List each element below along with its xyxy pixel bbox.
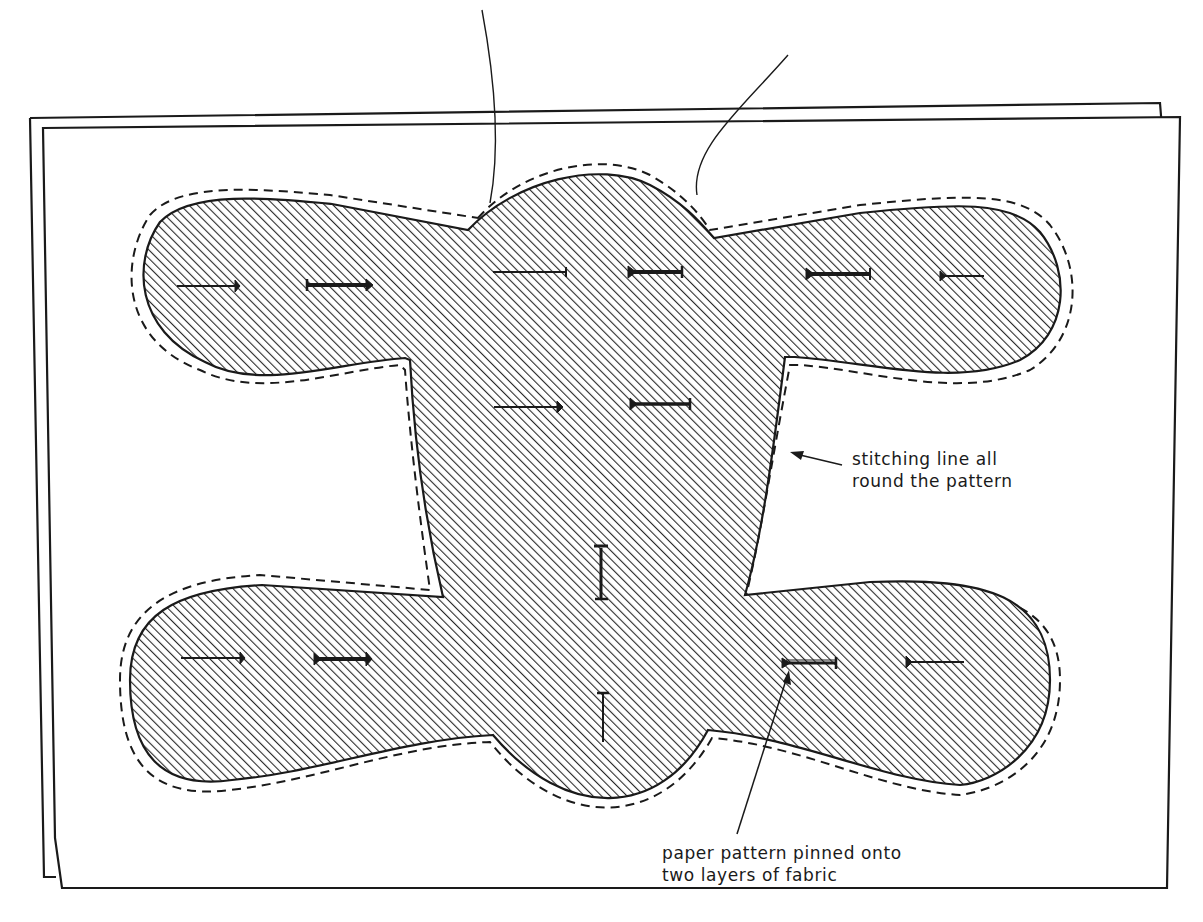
pattern-diagram [0,0,1203,922]
annotation-line: stitching line all [852,448,1013,470]
annotation-line: two layers of fabric [662,864,902,886]
stitching-line-annotation: stitching line all round the pattern [852,448,1013,492]
annotation-line: round the pattern [852,470,1013,492]
paper-pattern-annotation: paper pattern pinned onto two layers of … [662,842,902,886]
annotation-line: paper pattern pinned onto [662,842,902,864]
